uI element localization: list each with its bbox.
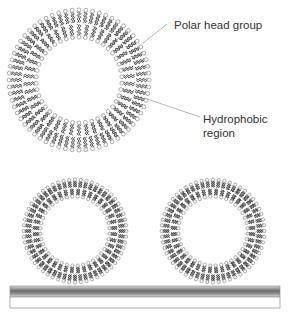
polar-head: [160, 235, 163, 238]
polar-head: [127, 128, 131, 132]
polar-head: [135, 39, 139, 43]
polar-head: [147, 78, 151, 82]
polar-head: [193, 200, 196, 203]
polar-head: [248, 193, 251, 196]
polar-head: [200, 179, 203, 182]
polar-head: [91, 200, 94, 203]
polar-head: [175, 193, 178, 196]
polar-head: [111, 51, 115, 55]
polar-head: [203, 263, 206, 266]
polar-head: [58, 39, 62, 43]
polar-head: [68, 178, 71, 181]
polar-head: [40, 57, 44, 61]
polar-head: [178, 237, 181, 240]
polar-head: [44, 51, 48, 55]
polar-head: [168, 202, 171, 205]
polar-head: [39, 232, 42, 235]
polar-head: [71, 195, 74, 198]
polar-head: [90, 119, 94, 123]
polar-head: [189, 183, 192, 186]
polar-head: [87, 261, 90, 264]
polar-head: [71, 121, 75, 125]
polar-head: [184, 273, 187, 276]
polar-head: [34, 75, 38, 79]
polar-head: [51, 203, 54, 206]
polar-head: [107, 221, 110, 224]
polar-head: [25, 212, 28, 215]
polar-head: [39, 227, 42, 230]
polar-head: [114, 261, 117, 264]
polar-head: [262, 218, 265, 221]
polar-head: [63, 9, 67, 13]
polar-head: [142, 51, 146, 55]
polar-head: [114, 100, 118, 104]
polar-head: [171, 261, 174, 264]
polar-head: [211, 281, 214, 284]
polar-head: [55, 200, 58, 203]
polar-head: [165, 252, 168, 255]
polar-head: [10, 58, 14, 62]
polar-head: [246, 232, 249, 235]
polar-head: [97, 11, 101, 15]
polar-head: [122, 212, 125, 215]
polar-head: [241, 247, 244, 250]
polar-head: [193, 259, 196, 262]
polar-head: [248, 266, 251, 269]
substrate-top: [10, 286, 280, 297]
polar-head: [23, 218, 26, 221]
polar-head: [96, 117, 100, 121]
polar-head: [96, 256, 99, 259]
polar-head: [124, 224, 127, 227]
polar-head: [110, 193, 113, 196]
polar-head: [58, 117, 62, 121]
polar-head: [131, 34, 135, 38]
polar-head: [35, 69, 39, 73]
polar-head: [105, 216, 108, 219]
polar-head: [120, 252, 123, 255]
polar-head: [122, 246, 125, 249]
polar-head: [41, 243, 44, 246]
polar-head: [119, 69, 123, 73]
polar-head: [57, 11, 61, 15]
polar-head: [63, 147, 67, 151]
polar-head: [48, 110, 52, 114]
polar-head: [46, 186, 49, 189]
polar-head: [106, 110, 110, 114]
polar-head: [38, 20, 42, 24]
polar-head: [101, 114, 105, 118]
polar-head: [64, 37, 68, 41]
polar-head: [41, 189, 44, 192]
polar-head: [209, 264, 212, 267]
polar-head: [60, 197, 63, 200]
polar-head: [214, 195, 217, 198]
hydrophobic-text-line2: region: [203, 126, 268, 140]
polar-head: [200, 280, 203, 283]
polar-head: [25, 246, 28, 249]
polar-head: [189, 203, 192, 206]
polar-head: [33, 261, 36, 264]
polar-head: [79, 178, 82, 181]
polar-head-leader: [143, 24, 167, 43]
polar-head: [50, 143, 54, 147]
polar-head: [146, 64, 150, 68]
polar-head: [104, 13, 108, 17]
polar-head: [22, 229, 25, 232]
polar-head: [85, 179, 88, 182]
polar-head: [120, 207, 123, 210]
polar-head-group-label: Polar head group: [174, 18, 262, 32]
polar-head: [206, 178, 209, 181]
polar-head: [56, 181, 59, 184]
polar-head: [225, 261, 228, 264]
polar-head: [178, 221, 181, 224]
polar-head: [90, 278, 93, 281]
polar-head: [37, 94, 41, 98]
polar-head: [120, 81, 124, 85]
polar-head: [211, 178, 214, 181]
polar-head: [223, 280, 226, 283]
polar-head: [105, 189, 108, 192]
polar-head: [57, 145, 61, 149]
polar-head: [70, 148, 74, 152]
polar-head-group-text: Polar head group: [174, 18, 262, 32]
polar-head: [229, 259, 232, 262]
polar-head: [243, 243, 246, 246]
